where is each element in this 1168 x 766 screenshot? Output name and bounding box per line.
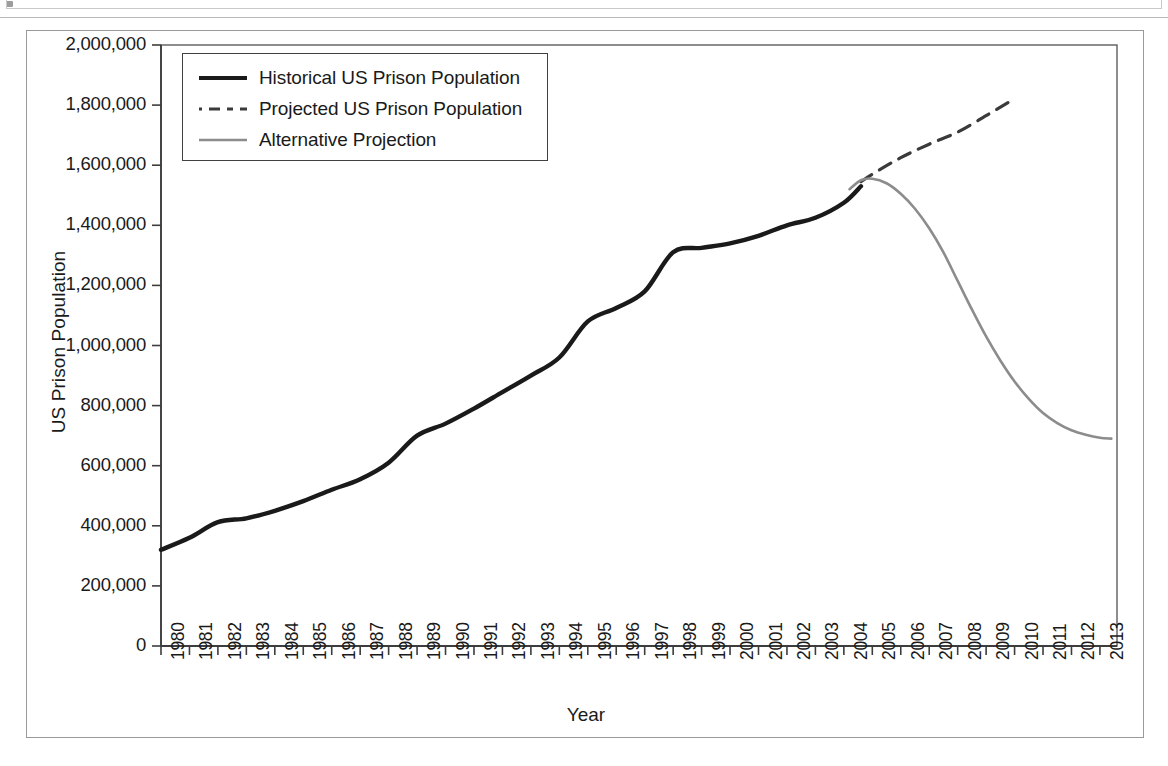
chart-legend: Historical US Prison Population Projecte… bbox=[182, 53, 548, 161]
x-tick-label: 2010 bbox=[1022, 622, 1043, 660]
x-tick-label: 1995 bbox=[595, 622, 616, 660]
x-tick-label: 1981 bbox=[196, 622, 217, 660]
y-tick-label: 600,000 bbox=[6, 454, 146, 476]
x-tick-label: 1998 bbox=[680, 622, 701, 660]
x-tick-label: 1983 bbox=[253, 622, 274, 660]
y-tick-label: 1,400,000 bbox=[6, 213, 146, 235]
legend-swatch-alternative bbox=[197, 133, 249, 147]
x-tick-label: 2000 bbox=[737, 622, 758, 660]
scanned-page-top-strip bbox=[0, 0, 1168, 18]
x-tick-label: 1999 bbox=[709, 622, 730, 660]
x-axis-title: Year bbox=[27, 704, 1145, 726]
x-tick-label: 1993 bbox=[538, 622, 559, 660]
y-tick-label: 400,000 bbox=[6, 514, 146, 536]
legend-label-alternative: Alternative Projection bbox=[259, 129, 436, 151]
series-line bbox=[850, 178, 1112, 438]
x-tick-label: 1991 bbox=[481, 622, 502, 660]
x-tick-label: 1992 bbox=[509, 622, 530, 660]
x-tick-label: 1986 bbox=[339, 622, 360, 660]
x-tick-label: 1996 bbox=[623, 622, 644, 660]
x-tick-label: 1982 bbox=[225, 622, 246, 660]
y-tick-label: 200,000 bbox=[6, 574, 146, 596]
x-tick-label: 1985 bbox=[310, 622, 331, 660]
legend-item: Historical US Prison Population bbox=[183, 62, 547, 93]
x-tick-label: 2001 bbox=[766, 622, 787, 660]
x-tick-label: 1988 bbox=[396, 622, 417, 660]
series-line bbox=[161, 186, 861, 550]
y-tick-label: 2,000,000 bbox=[6, 33, 146, 55]
line-chart: US Prison Population Year 0200,000400,00… bbox=[27, 31, 1145, 739]
legend-label-historical: Historical US Prison Population bbox=[259, 67, 520, 89]
legend-swatch-projected bbox=[197, 102, 249, 116]
x-tick-label: 1989 bbox=[424, 622, 445, 660]
x-tick-label: 1990 bbox=[453, 622, 474, 660]
x-tick-label: 2004 bbox=[851, 622, 872, 660]
x-tick-label: 2008 bbox=[965, 622, 986, 660]
x-tick-label: 2005 bbox=[879, 622, 900, 660]
y-tick-label: 0 bbox=[6, 634, 146, 656]
y-tick-label: 1,600,000 bbox=[6, 153, 146, 175]
x-tick-label: 1987 bbox=[367, 622, 388, 660]
y-tick-label: 800,000 bbox=[6, 394, 146, 416]
x-tick-label: 2002 bbox=[794, 622, 815, 660]
legend-label-projected: Projected US Prison Population bbox=[259, 98, 522, 120]
scan-strip-inner-border bbox=[6, 0, 1162, 9]
x-tick-label: 2007 bbox=[936, 622, 957, 660]
x-tick-label: 2013 bbox=[1107, 622, 1128, 660]
x-tick-label: 1984 bbox=[282, 622, 303, 660]
x-tick-label: 1980 bbox=[168, 622, 189, 660]
legend-item: Alternative Projection bbox=[183, 124, 547, 155]
x-tick-label: 1997 bbox=[652, 622, 673, 660]
y-tick-label: 1,200,000 bbox=[6, 273, 146, 295]
series-line bbox=[861, 102, 1009, 182]
figure-frame: US Prison Population Year 0200,000400,00… bbox=[26, 30, 1144, 738]
x-tick-label: 1994 bbox=[566, 622, 587, 660]
x-tick-label: 2011 bbox=[1050, 624, 1071, 660]
legend-item: Projected US Prison Population bbox=[183, 93, 547, 124]
legend-swatch-historical bbox=[197, 71, 249, 85]
x-tick-label: 2003 bbox=[822, 622, 843, 660]
x-tick-label: 2009 bbox=[993, 622, 1014, 660]
x-tick-label: 2006 bbox=[908, 622, 929, 660]
y-tick-label: 1,000,000 bbox=[6, 334, 146, 356]
y-tick-label: 1,800,000 bbox=[6, 93, 146, 115]
x-tick-label: 2012 bbox=[1078, 622, 1099, 660]
